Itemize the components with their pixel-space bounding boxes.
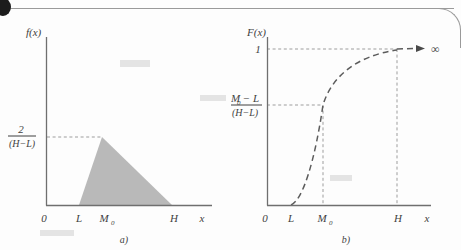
cdf-x-tick-L: L <box>287 212 294 224</box>
cdf-x-tick-H: H <box>393 212 403 224</box>
chart-panel-b: ∞ F(x) 1 M − L 0 (H−L) 0 L M 0 H x b) <box>231 0 461 250</box>
cdf-y-tick-mid-numerator-subscript: 0 <box>237 99 241 107</box>
figure-page: f(x) 2 (H−L) 0 L M 0 H x a) <box>0 0 461 250</box>
cdf-asymptote-arrowhead <box>416 45 425 52</box>
cdf-x-axis-title: x <box>424 212 430 224</box>
pdf-x-axis-title: x <box>199 212 205 224</box>
cdf-y-tick-mid-numerator: M − L <box>231 92 259 104</box>
cdf-y-axis-title: F(x) <box>246 26 266 39</box>
pdf-x-tick-0: 0 <box>41 212 47 224</box>
pdf-x-tick-M-subscript: 0 <box>111 219 115 227</box>
pdf-x-tick-H: H <box>169 212 179 224</box>
cdf-asymptote-arrow-line <box>397 49 417 50</box>
cdf-figure: ∞ F(x) 1 M − L 0 (H−L) 0 L M 0 H x b) <box>231 0 461 250</box>
pdf-x-tick-L: L <box>75 212 82 224</box>
pdf-y-tick-denominator: (H−L) <box>9 138 36 150</box>
cdf-x-tick-M-subscript: 0 <box>329 219 333 227</box>
pdf-y-tick-numerator: 2 <box>18 123 24 135</box>
cdf-y-tick-one: 1 <box>255 43 261 55</box>
cdf-x-tick-0: 0 <box>262 212 268 224</box>
pdf-x-tick-M: M <box>98 212 109 224</box>
cdf-panel-caption: b) <box>342 234 351 246</box>
pdf-figure: f(x) 2 (H−L) 0 L M 0 H x a) <box>0 0 230 250</box>
pdf-y-axis-title: f(x) <box>26 26 42 39</box>
pdf-panel-caption: a) <box>120 234 129 246</box>
chart-panel-a: f(x) 2 (H−L) 0 L M 0 H x a) <box>0 0 230 250</box>
cdf-y-tick-mid-denominator: (H−L) <box>232 107 259 119</box>
pdf-triangle-area <box>79 137 172 205</box>
cdf-curve <box>291 50 397 205</box>
cdf-x-tick-M: M <box>316 212 327 224</box>
cdf-infinity-label: ∞ <box>431 42 440 56</box>
